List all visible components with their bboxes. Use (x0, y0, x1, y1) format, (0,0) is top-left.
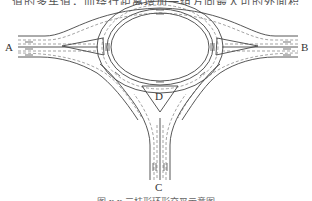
label-d: D (155, 90, 163, 102)
label-a: A (5, 41, 13, 53)
label-b: B (301, 41, 308, 53)
figure-caption: 图 x-x 三枝形环形交叉示意图 (0, 195, 312, 201)
label-c: C (155, 181, 162, 193)
ring-lanes (97, 1, 223, 93)
approach-a (18, 44, 142, 120)
roundabout-diagram: A B C D (0, 0, 312, 201)
approach-b (178, 44, 298, 120)
central-island (107, 9, 213, 85)
